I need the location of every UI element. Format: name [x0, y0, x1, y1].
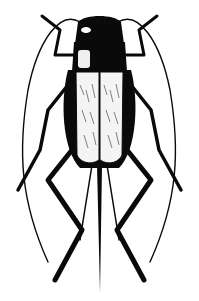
- pronotum-highlight: [78, 50, 90, 68]
- left-hind-femur: [48, 150, 82, 280]
- right-front-leg: [124, 16, 157, 55]
- right-wing: [100, 72, 123, 163]
- left-cercus: [80, 165, 92, 240]
- right-middle-leg: [131, 85, 181, 190]
- right-cercus: [107, 165, 119, 240]
- ovipositor: [97, 165, 102, 293]
- left-front-leg: [42, 16, 75, 55]
- cricket-illustration: [0, 0, 199, 301]
- left-wing: [76, 72, 99, 163]
- eye: [81, 27, 91, 33]
- right-hind-femur: [117, 150, 151, 280]
- left-middle-leg: [18, 85, 68, 190]
